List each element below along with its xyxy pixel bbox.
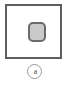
- subfigure-label-badge: a: [27, 64, 42, 79]
- rounded-square-shape-icon: [28, 22, 46, 42]
- figure-panel: a: [0, 0, 68, 86]
- subfigure-label-text: a: [34, 68, 38, 76]
- panel-frame: [5, 4, 62, 59]
